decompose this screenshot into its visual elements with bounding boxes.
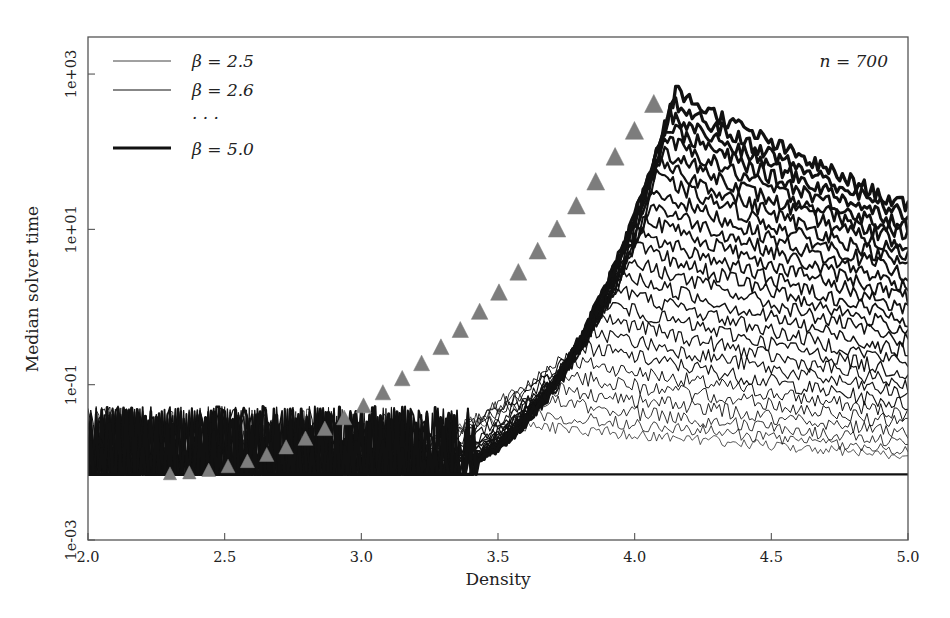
legend-label-1: β = 2.5 <box>191 51 254 71</box>
legend-label-2: β = 2.6 <box>191 80 254 100</box>
y-axis-tick-labels: 1e+031e+011e-011e-03 <box>63 50 79 561</box>
y-axis-label: Median solver time <box>22 206 42 372</box>
figure-container: 2.02.53.03.54.04.55.0 1e+031e+011e-011e-… <box>0 0 950 618</box>
y-tick-label: 1e+03 <box>63 50 79 98</box>
x-tick-label: 2.5 <box>213 549 236 565</box>
y-tick-label: 1e+01 <box>63 205 79 253</box>
chart-svg: 2.02.53.03.54.04.55.0 1e+031e+011e-011e-… <box>0 0 950 618</box>
x-tick-label: 4.5 <box>760 549 783 565</box>
x-tick-label: 4.0 <box>623 549 646 565</box>
y-tick-label: 1e-03 <box>63 519 79 560</box>
legend-ellipsis: · · · <box>192 108 219 128</box>
sample-size-annotation: n = 700 <box>820 51 889 71</box>
x-tick-label: 3.0 <box>350 549 373 565</box>
legend-label-4: β = 5.0 <box>191 139 254 159</box>
x-axis-label: Density <box>465 569 531 589</box>
x-tick-label: 5.0 <box>896 549 919 565</box>
y-tick-label: 1e-01 <box>63 364 79 405</box>
x-tick-label: 3.5 <box>486 549 509 565</box>
x-axis-tick-labels: 2.02.53.03.54.04.55.0 <box>76 549 919 565</box>
x-tick-label: 2.0 <box>76 549 99 565</box>
